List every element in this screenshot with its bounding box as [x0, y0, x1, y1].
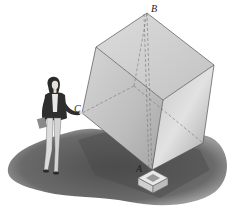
vertex-label-b: B [151, 4, 157, 14]
figure: B C A [0, 0, 234, 213]
vertex-label-c: C [74, 104, 81, 114]
cube-illustration [0, 0, 234, 213]
vertex-label-a: A [136, 164, 142, 174]
